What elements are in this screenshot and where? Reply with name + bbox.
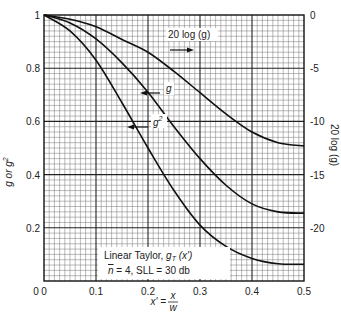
svg-text:0.3: 0.3 [193,286,207,297]
svg-text:0.4: 0.4 [26,170,40,181]
svg-text:0.1: 0.1 [89,286,103,297]
legend-box: Linear Taylor, gT (x') n = 4, SLL = 30 d… [98,247,230,279]
svg-text:20 log (g): 20 log (g) [168,29,210,40]
svg-text:0: 0 [41,286,47,297]
svg-text:x' =: x' = [149,296,166,307]
svg-text:0.6: 0.6 [26,116,40,127]
svg-text:0: 0 [310,10,316,21]
y-left-tick-labels: 0.20.40.60.810 [26,10,40,297]
svg-text:w: w [169,302,177,313]
svg-text:x: x [170,290,177,301]
svg-text:Linear Taylor, gT (x'): Linear Taylor, gT (x') [104,250,192,262]
svg-text:-15: -15 [310,170,325,181]
svg-text:0.2: 0.2 [26,223,40,234]
x-tick-labels: 00.10.20.30.40.5 [41,286,311,297]
svg-text:n = 4, SLL = 30 db: n = 4, SLL = 30 db [108,265,190,276]
y-left-axis-label: g or g2 [2,157,14,187]
svg-text:0.4: 0.4 [245,286,259,297]
chart: 00.10.20.30.40.5 0.20.40.60.810 0-5-10-1… [0,0,341,320]
svg-text:0: 0 [33,286,39,297]
y-right-tick-labels: 0-5-10-15-20 [310,10,325,234]
svg-text:0.8: 0.8 [26,63,40,74]
svg-text:-10: -10 [310,116,325,127]
svg-text:1: 1 [34,10,40,21]
svg-text:g: g [166,83,172,94]
arrow-right-icon [187,48,194,53]
svg-text:-5: -5 [310,63,319,74]
arrow-left-icon [127,125,134,130]
svg-text:0.5: 0.5 [297,286,311,297]
svg-text:-20: -20 [310,223,325,234]
grid-minor [44,15,304,281]
y-right-axis-label: 20 log (g) [329,124,340,166]
